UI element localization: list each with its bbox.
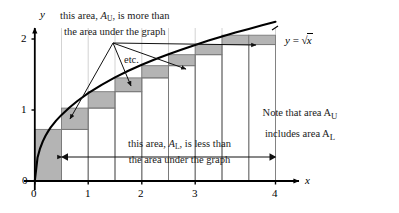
x-tick-label-3: 3 [192, 187, 198, 199]
side-note-symbol-upper: A [324, 107, 332, 118]
lower-note-text-a: this area, [128, 138, 169, 149]
upper-note-text-a: this area, [60, 10, 101, 21]
band-interval-3 [88, 92, 115, 108]
side-note-line1: Note that area AU [263, 104, 338, 125]
x-tick-label-1: 1 [85, 187, 91, 199]
lower-rect-3 [88, 108, 115, 181]
curve-label-radicand: x [307, 33, 313, 46]
lower-area-note-line1: this area, AL, is less than [128, 136, 231, 152]
curve-label-leader [272, 26, 278, 30]
upper-note-symbol: A [101, 10, 107, 21]
x-axis-label: x [305, 174, 310, 186]
side-note: Note that area AU includes area AL [263, 104, 338, 146]
curve-equation-label: y = √x [285, 33, 313, 46]
figure-container: this area, AU, is more than the area und… [0, 0, 399, 213]
lower-note-subscript: L [175, 142, 180, 151]
band-interval-8b [249, 35, 276, 44]
x-tick-label-4: 4 [272, 187, 278, 199]
y-origin-label: 0 [22, 174, 28, 186]
upper-note-subscript: U [107, 14, 112, 23]
side-note-line2: includes area AL [263, 125, 338, 146]
span-arrow-left-head [61, 153, 68, 161]
band-interval-5 [142, 66, 169, 78]
band-interval-7 [195, 45, 222, 55]
y-tick-label-1: 1 [21, 103, 27, 115]
sqrt-radical-icon: √x [302, 33, 313, 46]
side-note-symbol-lower: A [322, 128, 330, 139]
band-interval-8 [222, 35, 249, 44]
lower-area-note-line2: the area under the graph [128, 152, 231, 167]
x-tick-label-0: 0 [31, 187, 37, 199]
side-note-text-a: Note that area [263, 107, 324, 118]
side-note-text-b: includes area [265, 128, 322, 139]
etc-label: etc. [124, 54, 139, 65]
y-axis-label: y [40, 8, 45, 20]
upper-note-text-b: , is more than [112, 10, 169, 21]
y-tick-label-2: 2 [21, 32, 27, 44]
lower-area-note: this area, AL, is less than the area und… [128, 136, 231, 167]
curve-label-eq: = [290, 34, 302, 46]
x-tick-label-2: 2 [138, 187, 144, 199]
upper-area-note: this area, AU, is more than the area und… [60, 8, 170, 39]
lower-note-symbol: A [169, 138, 175, 149]
upper-area-note-line2: the area under the graph [60, 24, 170, 39]
side-note-subscript-upper: U [331, 111, 337, 121]
lower-note-text-b: , is less than [180, 138, 231, 149]
side-note-subscript-lower: L [330, 132, 335, 142]
upper-area-note-line1: this area, AU, is more than [60, 8, 170, 24]
